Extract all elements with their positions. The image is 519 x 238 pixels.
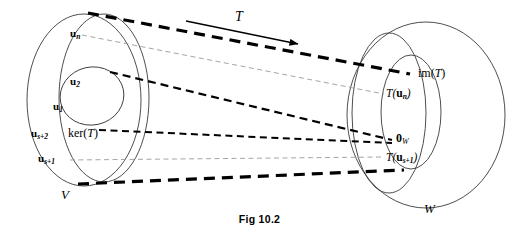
kernel-to-zero-line-upper bbox=[110, 72, 392, 140]
label-image-of-us-plus-1: T(us+1) bbox=[386, 152, 417, 165]
label-transformation-T: T bbox=[235, 10, 243, 24]
mapping-line-us-plus-1 bbox=[70, 157, 384, 160]
label-image-imT: im(T) bbox=[418, 67, 445, 79]
label-vector-un: un bbox=[70, 28, 80, 41]
label-kernel-kerT: ker(T) bbox=[68, 127, 98, 139]
label-vector-u1: u1 bbox=[53, 101, 63, 114]
domain-kernel-ellipse-kerT bbox=[55, 61, 130, 131]
label-vector-us-plus-2: us+2 bbox=[31, 128, 48, 141]
label-vector-us-plus-1: us+1 bbox=[38, 153, 55, 166]
envelope-connector-bottom bbox=[78, 170, 404, 184]
mapping-line-un bbox=[82, 35, 384, 94]
label-zero-vector-W: 0W bbox=[396, 132, 409, 146]
transformation-arrow bbox=[186, 21, 298, 44]
label-vector-u2: u2 bbox=[70, 76, 80, 89]
figure-caption: Fig 10.2 bbox=[0, 213, 519, 225]
label-image-of-un: T(un) bbox=[386, 88, 411, 101]
label-domain-set-V: V bbox=[61, 188, 69, 201]
figure-container: un u2 u1 us+2 us+1 ker(T) V im(T) T(un) … bbox=[0, 0, 519, 238]
